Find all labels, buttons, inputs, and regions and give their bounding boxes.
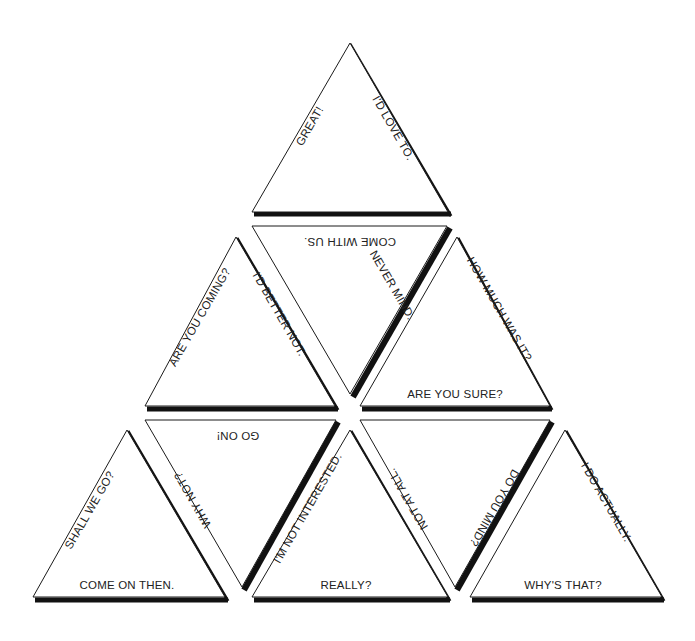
- triangle-t5-base-text: COME ON THEN.: [79, 579, 174, 591]
- triangle-t4-base-text: ARE YOU SURE?: [407, 388, 503, 400]
- triangle-t6-top-text: GO ON!: [217, 430, 260, 442]
- triangle-t1[interactable]: GREAT! I'D LOVE TO.: [252, 43, 451, 216]
- triangle-puzzle-board: GREAT! I'D LOVE TO. COME WITH US. NEVER …: [0, 0, 695, 641]
- triangle-outline: [252, 43, 448, 212]
- triangle-t9-base-text: WHY'S THAT?: [524, 579, 601, 591]
- triangle-t2-top-text: COME WITH US.: [304, 236, 396, 248]
- triangle-t7-base-text: REALLY?: [320, 579, 371, 591]
